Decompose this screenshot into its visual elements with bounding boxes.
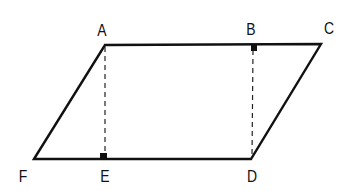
vertex-label-b: B (246, 21, 255, 38)
right-angle-mark-e (100, 153, 107, 159)
vertex-label-a: A (97, 22, 106, 39)
right-angle-mark-b (251, 45, 257, 51)
vertex-label-d: D (247, 168, 257, 185)
vertex-label-f: F (19, 168, 28, 185)
diagram-canvas: A B C D E F (0, 0, 346, 191)
parallelogram-figure (0, 0, 346, 191)
height-line-bd (252, 50, 253, 157)
vertex-label-c: C (324, 20, 334, 37)
vertex-label-e: E (100, 168, 109, 185)
parallelogram-outline (34, 44, 321, 159)
